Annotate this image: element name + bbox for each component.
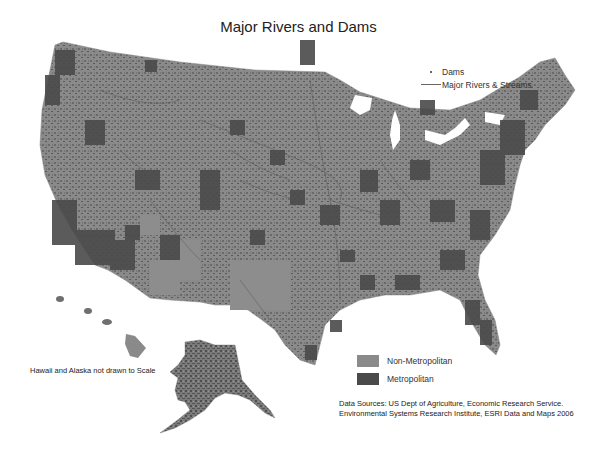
non-metro-swatch [357,355,379,367]
legend-label: Major Rivers & Streams [442,80,532,90]
sources-line-2: Environmental Systems Research Institute… [339,409,574,419]
hawaii [56,296,146,358]
alaska [160,340,275,433]
legend-label: Non-Metropolitan [387,356,452,366]
legend-item-metro: Metropolitan [357,370,452,388]
symbol-legend: Dams Major Rivers & Streams [420,65,532,91]
data-sources: Data Sources: US Dept of Agriculture, Ec… [339,399,574,419]
scale-note: Hawaii and Alaska not drawn to Scale [30,366,156,375]
class-legend: Non-Metropolitan Metropolitan [357,352,452,388]
legend-item-non-metro: Non-Metropolitan [357,352,452,370]
river-line-icon [421,84,441,85]
metro-swatch [357,373,379,385]
legend-item-rivers: Major Rivers & Streams [420,78,532,91]
legend-item-dams: Dams [420,65,532,78]
legend-label: Metropolitan [387,374,434,384]
sources-line-1: Data Sources: US Dept of Agriculture, Ec… [339,399,574,409]
dam-dot-icon [430,71,432,73]
legend-label: Dams [442,67,464,77]
